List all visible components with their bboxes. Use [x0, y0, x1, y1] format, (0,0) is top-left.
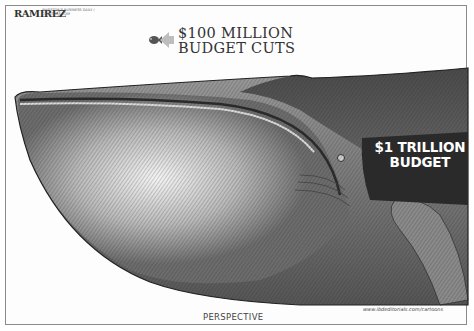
large-label-line1: $1 TRILLION — [372, 140, 468, 155]
small-label-line2: BUDGET CUTS — [178, 41, 295, 56]
cartoon-title: PERSPECTIVE — [203, 312, 263, 322]
arrow-left-icon — [160, 32, 174, 48]
trillion-budget-label: $1 TRILLION BUDGET — [372, 140, 468, 170]
small-label-line1: $100 MILLION — [178, 26, 295, 41]
small-budget-cuts-label: $100 MILLION BUDGET CUTS — [178, 26, 295, 56]
large-label-line2: BUDGET — [372, 155, 468, 170]
source-url: www.ibdeditorials.com/cartoons — [363, 306, 443, 312]
